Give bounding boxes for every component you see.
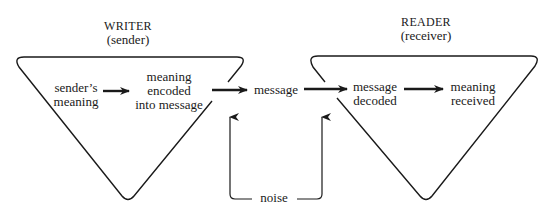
node-meaning-encoded-line3: into message [135, 98, 203, 112]
node-meaning-received: meaning received [451, 80, 496, 108]
noise-connector-left [230, 117, 252, 199]
node-message-decoded-line2: decoded [353, 94, 397, 108]
node-meaning-received-line2: received [451, 94, 496, 108]
noise-connector-right [297, 117, 322, 199]
node-senders-meaning: sender’s meaning [54, 81, 99, 109]
node-senders-meaning-line1: sender’s [54, 81, 99, 95]
node-meaning-encoded-line1: meaning [135, 70, 203, 84]
node-meaning-received-line1: meaning [451, 80, 496, 94]
reader-subtitle: (receiver) [401, 29, 452, 43]
reader-title: READER [401, 15, 451, 29]
node-message: message [254, 83, 298, 97]
writer-triangle [17, 57, 243, 200]
writer-title: WRITER [104, 19, 152, 33]
writer-subtitle: (sender) [107, 33, 150, 47]
node-meaning-encoded: meaning encoded into message [135, 70, 203, 112]
node-meaning-encoded-line2: encoded [135, 84, 203, 98]
node-senders-meaning-line2: meaning [54, 95, 99, 109]
reader-triangle [311, 56, 537, 200]
node-message-decoded-line1: message [353, 80, 397, 94]
node-noise: noise [260, 191, 287, 205]
node-message-decoded: message decoded [353, 80, 397, 108]
